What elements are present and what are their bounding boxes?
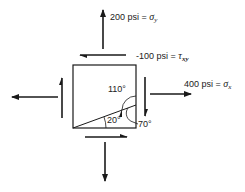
angle-110-label: 110° xyxy=(108,84,126,94)
tau-xy-label: -100 psi = τxy xyxy=(136,50,189,63)
stress-element-diagram: 200 psi = σy -100 psi = τxy 400 psi = σx… xyxy=(0,0,245,192)
angle-20-arc xyxy=(104,117,106,128)
angle-20-label: 20° xyxy=(107,115,121,125)
sigma-y-label: 200 psi = σy xyxy=(110,11,158,24)
sigma-x-label: 400 psi = σx xyxy=(184,78,232,91)
angle-70-label: 70° xyxy=(138,119,152,129)
